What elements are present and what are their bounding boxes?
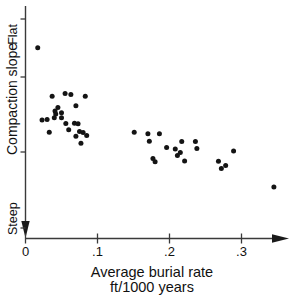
data-point (52, 115, 57, 120)
data-point (73, 103, 78, 108)
x-axis-arrow-icon (272, 234, 289, 242)
data-point (66, 127, 71, 132)
data-point (219, 166, 224, 171)
data-point (153, 159, 158, 164)
data-point (193, 139, 198, 144)
scatter-plot-figure: 0 .1 .2 .3 Flat Compaction slope Steep A… (0, 0, 293, 295)
plot-canvas: 0 .1 .2 .3 Flat Compaction slope Steep A… (0, 0, 293, 295)
data-point (47, 130, 52, 135)
data-point (78, 141, 83, 146)
data-point (63, 91, 68, 96)
data-point (179, 139, 184, 144)
data-point (132, 130, 137, 135)
data-point (35, 45, 40, 50)
data-point (73, 134, 78, 139)
data-point (178, 150, 183, 155)
data-point (59, 115, 64, 120)
data-point (223, 163, 228, 168)
data-points-layer (35, 45, 276, 189)
data-point (194, 146, 199, 151)
x-axis-title-line2: ft/1000 years (110, 279, 194, 295)
data-point (145, 131, 150, 136)
data-point (157, 131, 162, 136)
y-axis-ticks (21, 19, 26, 228)
x-tick-label-3: .3 (236, 244, 247, 259)
data-point (50, 94, 55, 99)
x-tick-label-2: .2 (164, 244, 175, 259)
x-axis-title-line1: Average burial rate (91, 264, 213, 280)
x-tick-label-0: 0 (22, 244, 29, 259)
x-tick-label-1: .1 (92, 244, 103, 259)
data-point (84, 133, 89, 138)
data-point (182, 158, 187, 163)
data-point (216, 159, 221, 164)
data-point (147, 139, 152, 144)
y-axis-bottom-label: Steep (6, 202, 20, 235)
data-point (231, 148, 236, 153)
data-point (68, 92, 73, 97)
y-axis-title: Compaction slope (4, 43, 20, 155)
data-point (83, 94, 88, 99)
data-point (40, 117, 45, 122)
data-point (45, 117, 50, 122)
data-point (271, 184, 276, 189)
data-point (63, 121, 68, 126)
data-point (164, 145, 169, 150)
data-point (173, 146, 178, 151)
y-axis-top-label: Flat (6, 23, 20, 44)
data-point (53, 109, 58, 114)
data-point (59, 110, 64, 115)
data-point (76, 121, 81, 126)
